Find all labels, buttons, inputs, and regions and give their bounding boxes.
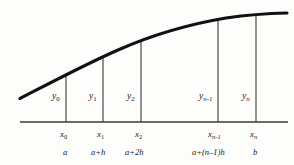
value-label-a: a [63,148,67,157]
figure-canvas [0,0,294,165]
tick-label-xn-1-subscript: n-1 [212,133,221,140]
ordinate-label-y2: y2 [127,92,135,102]
value-label-a-plus-n-minus-1-h: a+(n–1)h [192,148,225,157]
tick-label-xn-subscript: n [254,133,257,140]
ordinate-label-y1-subscript: 1 [93,95,96,102]
value-label-a-plus-h: a+h [91,148,105,157]
value-label-b: b [253,148,257,157]
ordinate-label-yn-subscript: n [246,95,249,102]
ordinate-label-yn-1: yn-1 [199,92,212,102]
tick-label-xn-1: xn-1 [208,130,221,139]
ordinate-label-yn-1-subscript: n-1 [203,95,212,102]
tick-label-xn: xn [250,130,257,139]
tick-label-x2-subscript: 2 [139,133,142,140]
trapezoidal-rule-figure: y0 y1 y2 yn-1 yn x0 x1 x2 xn-1 xn a a+h … [0,0,294,165]
ordinate-label-yn: yn [242,92,250,102]
tick-label-x0: x0 [60,130,67,139]
tick-label-x1-subscript: 1 [101,133,104,140]
ordinate-label-y0: y0 [52,92,60,102]
ordinate-label-y1: y1 [89,92,97,102]
value-label-a-plus-2h: a+2h [125,148,144,157]
tick-label-x2: x2 [135,130,142,139]
tick-label-x1: x1 [97,130,104,139]
tick-label-x0-subscript: 0 [64,133,67,140]
ordinate-label-y0-subscript: 0 [56,95,59,102]
ordinate-label-y2-subscript: 2 [131,95,134,102]
function-curve [20,13,287,99]
